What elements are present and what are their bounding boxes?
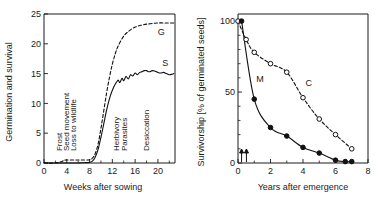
chart-panel-survivorship: 02468050100 CM Survivorship [% of germin… [193, 0, 386, 203]
y-tick-label: 0 [230, 158, 235, 168]
data-point-M [268, 125, 273, 130]
data-point-C [317, 117, 322, 122]
series-curve-C [238, 21, 352, 149]
x-tick-label: 0 [235, 166, 240, 176]
annotation-label: Parasites [120, 118, 129, 151]
series-label-S: S [162, 58, 168, 68]
figure-container: 0481216200510152025 GS FrostSeed movemen… [0, 0, 386, 203]
x-tick-label: 4 [64, 166, 69, 176]
right-curves: CM [238, 21, 352, 162]
y-tick-label: 5 [36, 128, 41, 138]
x-tick-label: 0 [41, 166, 46, 176]
data-point-C [301, 95, 306, 100]
series-curve-M [242, 21, 352, 162]
y-tick-label: 15 [31, 69, 41, 79]
x-tick-label: 12 [107, 166, 117, 176]
right-annotations [240, 149, 249, 162]
arrow-head [240, 149, 244, 153]
y-tick-label: 10 [31, 99, 41, 109]
data-point-M [317, 151, 322, 156]
x-tick-label: 6 [333, 166, 338, 176]
y-tick-label: 20 [31, 39, 41, 49]
x-axis-title-right: Years after emergence [258, 182, 349, 192]
series-label-M: M [256, 74, 264, 84]
plot-frame [238, 14, 368, 163]
left-axes: 0481216200510152025 [31, 9, 175, 176]
x-tick-label: 16 [130, 166, 140, 176]
x-tick-label: 8 [365, 166, 370, 176]
data-point-C [349, 147, 354, 152]
arrow-marker [240, 149, 244, 162]
y-tick-label: 25 [31, 9, 41, 19]
data-point-M [301, 145, 306, 150]
x-axis-title-left: Weeks after sowing [64, 182, 142, 192]
data-point-M [343, 159, 348, 164]
data-point-C [252, 50, 257, 55]
data-point-M [252, 97, 257, 102]
y-tick-label: 0 [36, 158, 41, 168]
data-point-M [349, 159, 354, 164]
x-tick-label: 4 [300, 166, 305, 176]
data-point-C [333, 132, 338, 137]
data-point-C [284, 70, 289, 75]
x-tick-label: 8 [87, 166, 92, 176]
annotation-label: Loss to wildlife [69, 99, 78, 152]
data-point-C [268, 61, 273, 66]
arrow-marker [244, 149, 248, 162]
y-tick-label: 50 [225, 87, 235, 97]
series-label-G: G [158, 27, 165, 37]
x-tick-label: 20 [153, 166, 163, 176]
data-point-M [333, 158, 338, 163]
data-point-M [284, 134, 289, 139]
data-point-C [244, 37, 249, 42]
x-tick-label: 2 [268, 166, 273, 176]
arrow-head [244, 149, 248, 153]
left-annotations: FrostSeed movementLoss to wildlifeHerbiv… [55, 92, 151, 151]
y-axis-title-left: Germination and survival [4, 42, 14, 142]
data-point-M [239, 19, 244, 24]
y-axis-title-right: Survivorship [% of germinated seeds] [196, 17, 206, 166]
y-tick-label: 100 [220, 16, 235, 26]
annotation-label: Desiccation [142, 110, 151, 151]
chart-panel-germination-survival: 0481216200510152025 GS FrostSeed movemen… [0, 0, 193, 203]
series-label-C: C [305, 78, 312, 88]
